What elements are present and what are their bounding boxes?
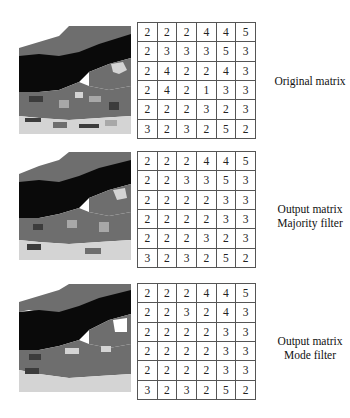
label-majority-filter: Output matrix Majority filter xyxy=(268,202,350,230)
label-original: Original matrix xyxy=(268,74,350,88)
panel-original: 222445 233353 242243 242133 222323 32325… xyxy=(0,0,350,132)
cell: 4 xyxy=(196,284,216,303)
cell: 2 xyxy=(177,209,197,228)
cell: 3 xyxy=(196,42,216,61)
cell: 3 xyxy=(236,341,256,360)
cell: 2 xyxy=(157,284,177,303)
cell: 3 xyxy=(177,303,197,322)
cell: 2 xyxy=(157,100,177,119)
cell: 4 xyxy=(216,303,236,322)
cell: 3 xyxy=(196,100,216,119)
cell: 2 xyxy=(157,303,177,322)
cell: 2 xyxy=(138,152,158,171)
cell: 2 xyxy=(196,303,216,322)
cell: 2 xyxy=(196,209,216,228)
cell: 2 xyxy=(177,284,197,303)
cell: 5 xyxy=(216,42,236,61)
cell: 4 xyxy=(216,284,236,303)
matrix-mode-filter: 222445 223243 222233 222233 222233 32325… xyxy=(137,283,256,400)
cell: 2 xyxy=(157,322,177,341)
cell: 2 xyxy=(177,100,197,119)
cell: 2 xyxy=(138,23,158,42)
cell: 4 xyxy=(196,152,216,171)
cell: 2 xyxy=(177,190,197,209)
cell: 3 xyxy=(236,361,256,380)
cell: 5 xyxy=(236,23,256,42)
cell: 3 xyxy=(236,80,256,99)
cell: 2 xyxy=(196,380,216,399)
cell: 2 xyxy=(138,209,158,228)
cell: 3 xyxy=(216,322,236,341)
label-mode-filter: Output matrix Mode filter xyxy=(268,334,350,362)
cell: 4 xyxy=(216,23,236,42)
label-line: Majority filter xyxy=(268,216,350,230)
cell: 2 xyxy=(138,284,158,303)
cell: 5 xyxy=(216,171,236,190)
cell: 3 xyxy=(236,209,256,228)
cell: 3 xyxy=(236,171,256,190)
cell: 3 xyxy=(236,322,256,341)
cell: 3 xyxy=(138,380,158,399)
cell: 2 xyxy=(138,61,158,80)
cell: 2 xyxy=(138,100,158,119)
cell: 2 xyxy=(216,229,236,248)
cell: 2 xyxy=(157,361,177,380)
matrix-majority-filter: 222445 223353 222233 222233 222323 32325… xyxy=(137,151,256,268)
cell: 2 xyxy=(177,341,197,360)
label-line: Output matrix xyxy=(268,202,350,216)
cell: 2 xyxy=(138,341,158,360)
label-line: Output matrix xyxy=(268,334,350,348)
cell: 1 xyxy=(196,80,216,99)
classified-raster-icon xyxy=(19,152,131,260)
cell: 2 xyxy=(138,322,158,341)
panel-mode-filter: 222445 223243 222233 222233 222233 32325… xyxy=(0,264,350,396)
cell: 2 xyxy=(157,152,177,171)
cell: 4 xyxy=(216,61,236,80)
cell: 2 xyxy=(157,171,177,190)
cell: 2 xyxy=(196,341,216,360)
cell: 2 xyxy=(157,341,177,360)
cell: 2 xyxy=(196,361,216,380)
cell: 3 xyxy=(236,61,256,80)
cell: 2 xyxy=(138,42,158,61)
cell: 2 xyxy=(138,229,158,248)
raster-image-original xyxy=(19,26,131,134)
cell: 2 xyxy=(157,380,177,399)
cell: 3 xyxy=(177,380,197,399)
cell: 4 xyxy=(216,152,236,171)
cell: 2 xyxy=(157,190,177,209)
cell: 5 xyxy=(236,152,256,171)
cell: 2 xyxy=(196,322,216,341)
cell: 2 xyxy=(138,80,158,99)
cell: 3 xyxy=(236,100,256,119)
label-line: Original matrix xyxy=(268,74,350,88)
cell: 5 xyxy=(216,380,236,399)
cell: 2 xyxy=(177,23,197,42)
cell: 4 xyxy=(196,23,216,42)
cell: 3 xyxy=(177,171,197,190)
cell: 2 xyxy=(177,80,197,99)
cell: 3 xyxy=(216,341,236,360)
label-line: Mode filter xyxy=(268,348,350,362)
cell: 2 xyxy=(196,190,216,209)
cell: 2 xyxy=(177,229,197,248)
classified-raster-icon xyxy=(19,26,131,134)
classified-raster-icon xyxy=(19,284,131,392)
cell: 3 xyxy=(196,171,216,190)
cell: 3 xyxy=(216,361,236,380)
cell: 2 xyxy=(177,152,197,171)
cell: 3 xyxy=(216,80,236,99)
raster-image-majority xyxy=(19,152,131,260)
raster-image-mode xyxy=(19,284,131,392)
cell: 3 xyxy=(177,42,197,61)
cell: 3 xyxy=(236,303,256,322)
cell: 2 xyxy=(138,171,158,190)
cell: 4 xyxy=(157,61,177,80)
cell: 3 xyxy=(236,190,256,209)
cell: 2 xyxy=(177,61,197,80)
matrix-original: 222445 233353 242243 242133 222323 32325… xyxy=(137,22,256,139)
cell: 2 xyxy=(138,190,158,209)
cell: 3 xyxy=(157,42,177,61)
cell: 2 xyxy=(196,61,216,80)
cell: 3 xyxy=(196,229,216,248)
